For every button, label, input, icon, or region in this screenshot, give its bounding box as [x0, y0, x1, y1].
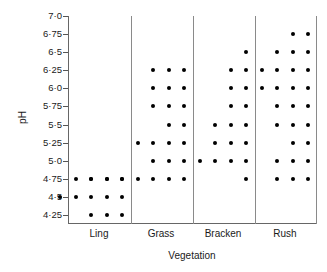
y-tick-label: 6·25 — [28, 65, 62, 75]
data-point — [291, 68, 295, 72]
y-tick-mark — [63, 197, 68, 198]
x-tick-label-bracken: Bracken — [192, 228, 254, 240]
data-point — [120, 195, 124, 199]
data-point — [89, 195, 93, 199]
data-point — [198, 159, 202, 163]
y-tick-mark — [63, 161, 68, 162]
data-point — [291, 32, 295, 36]
data-point — [306, 86, 310, 90]
y-tick-label: 4·5 — [28, 192, 62, 202]
data-point — [89, 177, 93, 181]
data-point — [291, 104, 295, 108]
data-point — [151, 68, 155, 72]
data-point — [291, 159, 295, 163]
data-point — [105, 213, 109, 217]
data-point — [244, 159, 248, 163]
x-axis-title: Vegetation — [68, 250, 316, 261]
x-tick-label-rush: Rush — [254, 228, 316, 240]
y-tick-label: 5·75 — [28, 101, 62, 111]
y-tick-mark — [63, 88, 68, 89]
data-point — [136, 177, 140, 181]
data-point — [275, 104, 279, 108]
data-point — [244, 104, 248, 108]
y-tick-mark — [63, 106, 68, 107]
data-point — [213, 123, 217, 127]
data-point — [306, 159, 310, 163]
data-point — [120, 177, 124, 181]
data-point — [213, 159, 217, 163]
y-tick-label: 5·0 — [28, 156, 62, 166]
data-point — [151, 177, 155, 181]
y-tick-mark — [63, 125, 68, 126]
data-point — [229, 159, 233, 163]
data-point — [244, 141, 248, 145]
data-point — [275, 86, 279, 90]
data-point — [167, 177, 171, 181]
data-point — [229, 104, 233, 108]
data-point — [167, 86, 171, 90]
y-tick-label: 5·25 — [28, 138, 62, 148]
dot-plot-chart: pH 7·06·756·56·256·05·755·55·255·04·754·… — [0, 0, 327, 272]
y-tick-label: 4·25 — [28, 210, 62, 220]
y-tick-label: 4·75 — [28, 174, 62, 184]
y-tick-label: 7·0 — [28, 11, 62, 21]
data-point — [89, 213, 93, 217]
data-point — [244, 123, 248, 127]
data-point — [74, 195, 78, 199]
data-point — [306, 32, 310, 36]
y-tick-mark — [63, 143, 68, 144]
data-point — [182, 123, 186, 127]
data-point — [306, 123, 310, 127]
panel-divider — [131, 16, 132, 224]
data-point — [151, 159, 155, 163]
data-point — [275, 68, 279, 72]
data-point — [291, 86, 295, 90]
y-tick-mark — [63, 16, 68, 17]
data-point — [244, 177, 248, 181]
data-point — [167, 141, 171, 145]
panel-divider — [255, 16, 256, 224]
data-point — [244, 68, 248, 72]
data-point — [244, 86, 248, 90]
y-tick-label: 6·0 — [28, 83, 62, 93]
data-point — [120, 213, 124, 217]
data-point — [74, 177, 78, 181]
data-point — [275, 177, 279, 181]
data-point — [275, 50, 279, 54]
data-point — [229, 86, 233, 90]
data-point — [182, 159, 186, 163]
data-point — [275, 123, 279, 127]
y-tick-mark — [63, 179, 68, 180]
y-tick-mark — [63, 215, 68, 216]
plot-right-border — [316, 16, 317, 224]
data-point — [151, 141, 155, 145]
data-point — [167, 104, 171, 108]
data-point — [105, 177, 109, 181]
data-point — [260, 86, 264, 90]
data-point — [244, 50, 248, 54]
data-point — [213, 141, 217, 145]
data-point — [151, 104, 155, 108]
data-point — [291, 50, 295, 54]
y-tick-mark — [63, 70, 68, 71]
data-point — [306, 68, 310, 72]
data-point — [105, 195, 109, 199]
y-tick-label: 5·5 — [28, 120, 62, 130]
panel-divider — [193, 16, 194, 224]
data-point — [306, 50, 310, 54]
data-point — [306, 104, 310, 108]
y-tick-mark — [63, 34, 68, 35]
data-point — [167, 123, 171, 127]
data-point — [182, 141, 186, 145]
y-tick-label: 6·75 — [28, 29, 62, 39]
data-point — [291, 123, 295, 127]
data-point — [229, 123, 233, 127]
data-point — [306, 177, 310, 181]
data-point — [291, 141, 295, 145]
data-point — [167, 68, 171, 72]
data-point — [151, 86, 155, 90]
plot-area — [68, 16, 316, 224]
x-axis-tick-labels: LingGrassBrackenRush — [68, 228, 316, 244]
data-point — [182, 177, 186, 181]
data-point — [260, 68, 264, 72]
